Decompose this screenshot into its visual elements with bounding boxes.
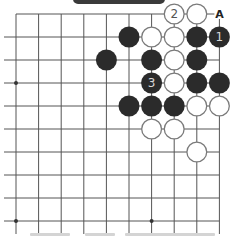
black-stone: [186, 27, 207, 48]
star-point: [14, 81, 18, 85]
move-number: 1: [216, 30, 224, 44]
white-stone: [142, 119, 162, 139]
move-number: 3: [148, 76, 156, 90]
caption-fragment: [125, 233, 215, 236]
move-number: 2: [170, 7, 178, 21]
white-stone: [164, 119, 184, 139]
white-stone: [164, 73, 184, 93]
white-stone: [210, 96, 230, 116]
black-stone: [186, 73, 207, 94]
white-stone: 2: [164, 4, 184, 24]
black-stone: [164, 96, 185, 117]
black-stone: [186, 50, 207, 71]
black-stone: [96, 50, 117, 71]
white-stone: [142, 27, 162, 47]
white-stone: [187, 4, 207, 24]
black-stone: 3: [141, 73, 162, 94]
go-board: 213 A: [0, 0, 231, 239]
black-stone: [209, 73, 230, 94]
point-label: A: [215, 8, 224, 21]
star-point: [150, 219, 154, 223]
white-stone: [187, 96, 207, 116]
black-stone: [141, 50, 162, 71]
black-stone: [141, 96, 162, 117]
black-stone: 1: [209, 27, 230, 48]
caption-fragment: [30, 233, 70, 236]
point-labels: A: [214, 8, 224, 21]
board-grid: [4, 14, 219, 234]
black-stone: [119, 96, 140, 117]
white-stone: [187, 142, 207, 162]
caption-fragment: [85, 233, 115, 236]
white-stone: [164, 50, 184, 70]
black-stone: [119, 27, 140, 48]
star-point: [14, 219, 18, 223]
white-stone: [164, 27, 184, 47]
